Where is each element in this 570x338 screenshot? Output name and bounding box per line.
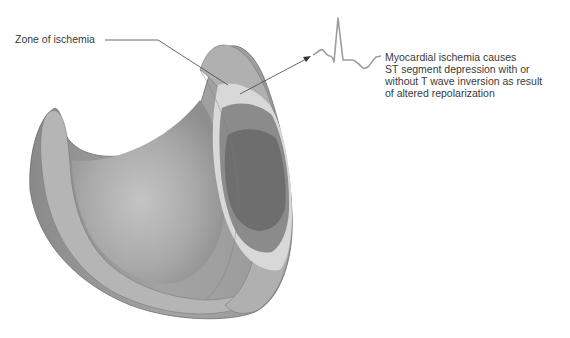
ecg-caption-line-4: of altered repolarization [385, 87, 570, 99]
ecg-waveform [313, 18, 381, 68]
ecg-caption-line-3: without T wave inversion as result [385, 75, 570, 87]
zone-of-ischemia-label: Zone of ischemia [15, 33, 95, 45]
arrow-head-icon [303, 56, 311, 62]
ecg-caption-line-1: Myocardial ischemia causes [385, 51, 570, 63]
ischemia-diagram: Zone of ischemia Myocardial ischemia cau… [0, 0, 570, 338]
ecg-caption: Myocardial ischemia causes ST segment de… [385, 51, 570, 99]
ecg-caption-line-2: ST segment depression with or [385, 63, 570, 75]
